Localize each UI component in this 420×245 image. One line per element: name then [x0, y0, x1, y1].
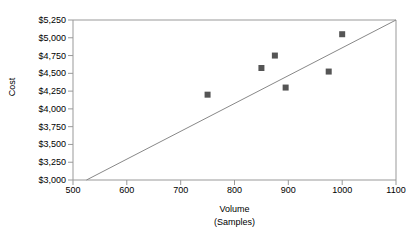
plot-frame — [73, 20, 396, 180]
data-point — [205, 92, 211, 98]
data-point — [272, 53, 278, 59]
data-point — [339, 31, 345, 37]
x-axis-title: Volume (Samples) — [73, 203, 396, 229]
x-tick-label: 1100 — [374, 185, 418, 196]
x-axis-title-line1: Volume — [73, 203, 396, 216]
data-point — [258, 65, 264, 71]
data-point — [326, 69, 332, 75]
x-axis-tick-labels: 500 600 700 800 900 1000 1100 — [0, 185, 420, 199]
data-point — [283, 85, 289, 91]
x-tick-label: 900 — [266, 185, 310, 196]
x-tick-label: 1000 — [320, 185, 364, 196]
y-axis-ticks — [68, 20, 73, 180]
x-tick-label: 500 — [51, 185, 95, 196]
x-axis-title-line2: (Samples) — [73, 216, 396, 229]
x-tick-label: 600 — [105, 185, 149, 196]
scatter-chart: Cost $5,250 $5,000 $4,750 $4,500 $4,250 … — [0, 0, 420, 245]
trend-line — [86, 20, 396, 180]
x-tick-label: 800 — [213, 185, 257, 196]
data-point-markers — [205, 31, 346, 97]
x-tick-label: 700 — [159, 185, 203, 196]
